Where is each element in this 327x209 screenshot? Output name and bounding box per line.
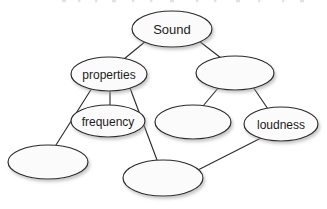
node-unnamed-right-upper[interactable] [196, 56, 274, 90]
edge-unnamed-right-upper-loudness [253, 87, 268, 109]
top-text-fragment-mark [78, 0, 80, 2]
node-properties[interactable]: properties [71, 57, 147, 91]
node-loudness[interactable]: loudness [244, 107, 318, 141]
top-text-fragment-mark [196, 0, 198, 2]
node-label-sound: Sound [153, 22, 191, 37]
node-layer: Soundpropertiesfrequencyloudness [8, 11, 318, 196]
edge-unnamed-right-upper-unnamed-middle [203, 87, 219, 106]
top-text-fragment-mark [62, 0, 66, 2]
top-text-fragment-mark [132, 0, 134, 2]
top-text-fragment [62, 0, 304, 2]
top-text-fragment-mark [170, 0, 174, 2]
node-label-loudness: loudness [257, 118, 305, 132]
top-text-fragment-mark [214, 0, 216, 2]
top-text-fragment-mark [236, 0, 240, 2]
top-text-fragment-mark [258, 0, 260, 2]
top-text-fragment-mark [95, 0, 97, 2]
node-unnamed-bottom-left[interactable] [8, 145, 88, 179]
concept-map-diagram: Soundpropertiesfrequencyloudness [0, 0, 327, 209]
node-shape-unnamed-bottom-left[interactable] [8, 145, 88, 179]
top-text-fragment-mark [300, 0, 304, 2]
node-label-properties: properties [82, 68, 135, 82]
edge-sound-properties [124, 41, 146, 59]
node-unnamed-middle[interactable] [155, 105, 231, 139]
node-sound[interactable]: Sound [132, 11, 212, 47]
top-text-fragment-mark [150, 0, 152, 2]
top-text-fragment-mark [282, 0, 284, 2]
node-shape-unnamed-right-upper[interactable] [196, 56, 274, 90]
top-text-fragment-mark [112, 0, 116, 2]
node-label-frequency: frequency [82, 115, 135, 129]
node-shape-unnamed-middle[interactable] [155, 105, 231, 139]
node-frequency[interactable]: frequency [71, 105, 145, 137]
node-unnamed-bottom-center[interactable] [123, 160, 203, 196]
node-shape-unnamed-bottom-center[interactable] [123, 160, 203, 196]
edge-sound-unnamed-right-upper [199, 41, 221, 58]
concept-map-canvas: Soundpropertiesfrequencyloudness [0, 0, 327, 209]
edge-loudness-unnamed-bottom-center [196, 137, 263, 171]
